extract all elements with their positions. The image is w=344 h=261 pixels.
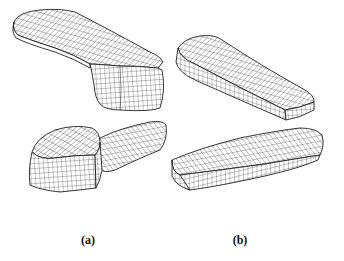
mesh-handle-view-bottom (29, 121, 166, 192)
mesh-tapered-block-view-bottom (172, 128, 323, 190)
mesh-tapered-block-view-top (176, 36, 314, 121)
panel-label-a: (a) (81, 233, 95, 248)
mesh-handle-view-top (13, 9, 164, 110)
figure-canvas (0, 0, 344, 261)
panel-label-b: (b) (233, 233, 248, 248)
